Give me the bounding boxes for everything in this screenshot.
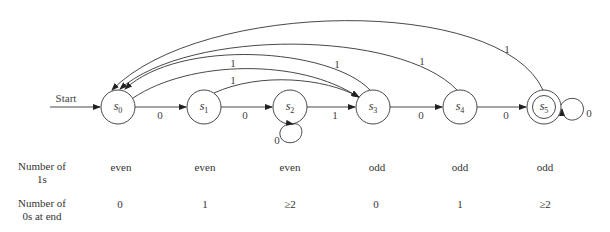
state-label-s1: s1 [200, 99, 209, 115]
cell-zeros-s3: 0 [373, 198, 379, 210]
edge-s1-s3 [214, 80, 359, 97]
cell-zeros-s4: 1 [457, 198, 463, 210]
state-diagram [0, 0, 610, 232]
state-label-s4: s4 [456, 99, 465, 115]
edge-label-s3-s4: 0 [418, 109, 424, 121]
state-label-s3: s3 [369, 99, 378, 115]
edge-s2-self-loop [280, 124, 302, 143]
edge-label-s5-s0: 1 [504, 43, 510, 55]
cell-ones-s0: even [111, 161, 132, 173]
cell-ones-s1: even [195, 161, 216, 173]
cell-ones-s3: odd [369, 161, 386, 173]
edge-label-s1-s3: 1 [230, 74, 236, 86]
edge-label-s2-s3: 1 [332, 109, 338, 121]
cell-zeros-s5: ≥2 [539, 198, 551, 210]
cell-ones-s2: even [280, 161, 301, 173]
cell-zeros-s2: ≥2 [284, 198, 296, 210]
cell-ones-s4: odd [452, 161, 469, 173]
row-header-number-of-0s-at-end: Number of 0s at end [18, 197, 66, 223]
edge-label-s4-s5: 0 [503, 109, 509, 121]
edge-s4-s0 [120, 44, 457, 90]
edge-s5-s0 [112, 21, 543, 90]
start-label: Start [56, 92, 77, 104]
state-label-s0: s0 [114, 99, 123, 115]
edge-label-s5-self: 0 [586, 107, 592, 119]
edge-label-s3-s0: 1 [334, 58, 340, 70]
cell-ones-s5: odd [537, 161, 554, 173]
edge-s3-s0 [125, 55, 370, 90]
edge-label-s4-s0: 1 [419, 55, 425, 67]
state-label-s2: s2 [286, 99, 295, 115]
edge-label-s2-self: 0 [274, 134, 280, 146]
edge-s5-self-loop [561, 98, 583, 120]
state-label-s5: s5 [540, 99, 549, 115]
edge-label-s1-s2: 0 [242, 109, 248, 121]
edge-label-s0-s3: 1 [230, 57, 236, 69]
cell-zeros-s0: 0 [117, 198, 123, 210]
cell-zeros-s1: 1 [202, 198, 208, 210]
edge-label-s0-s1: 0 [157, 109, 163, 121]
row-header-number-of-1s: Number of 1s [18, 160, 66, 186]
